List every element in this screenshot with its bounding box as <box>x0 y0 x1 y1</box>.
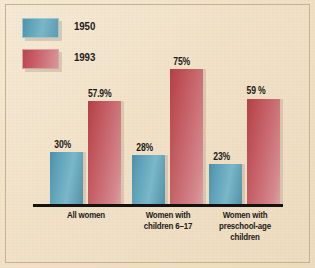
x-axis-label-all-women: All women <box>44 210 128 221</box>
bar-value-1993-all-women: 57.9% <box>88 88 112 99</box>
bar-1950-all-women <box>50 152 83 204</box>
chart-figure: 1950 1993 30% 57.9% 28% 75% 23% 59 % All… <box>0 0 315 268</box>
x-axis-label-children-6-17: Women with children 6–17 <box>126 210 210 232</box>
x-axis-baseline <box>33 204 283 207</box>
bar-1993-children-6-17 <box>170 69 203 204</box>
legend-label-1993: 1993 <box>74 51 95 63</box>
x-axis-label-children-6-17-line-1: Women with <box>131 210 205 221</box>
bar-value-1993-preschool-age: 59 % <box>247 85 266 96</box>
legend-swatch-1993-icon <box>22 49 59 69</box>
x-axis-label-preschool-age-line-3: children <box>208 232 282 243</box>
bar-value-1993-children-6-17: 75% <box>173 56 190 67</box>
legend-label-1950: 1950 <box>74 20 95 32</box>
bar-value-1950-preschool-age: 23% <box>213 151 230 162</box>
x-axis-label-children-6-17-line-2: children 6–17 <box>131 221 205 232</box>
bar-value-1950-children-6-17: 28% <box>136 142 153 153</box>
x-axis-label-preschool-age-line-1: Women with <box>208 210 282 221</box>
bar-1950-children-6-17 <box>132 155 165 204</box>
bar-value-1950-all-women: 30% <box>54 139 71 150</box>
bar-1950-preschool-age <box>209 164 242 204</box>
plot-area: 1950 1993 30% 57.9% 28% 75% 23% 59 % All… <box>0 0 315 268</box>
x-axis-label-preschool-age-line-2: preschool-age <box>208 221 282 232</box>
x-axis-label-all-women-line-1: All women <box>49 210 123 221</box>
bar-1993-preschool-age <box>247 99 280 204</box>
bar-1993-all-women <box>88 101 121 204</box>
x-axis-label-preschool-age: Women with preschool-age children <box>203 210 287 243</box>
legend-swatch-1950-icon <box>22 18 59 38</box>
